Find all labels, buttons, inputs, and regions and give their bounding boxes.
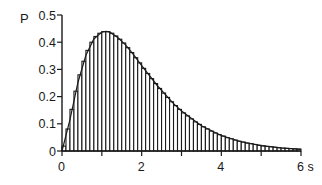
histogram-bar (245, 143, 249, 151)
histogram-bar (94, 36, 98, 151)
histogram-bar (170, 102, 174, 151)
histogram-bar (78, 75, 82, 151)
histogram-bar (122, 43, 126, 151)
histogram-bar (237, 141, 241, 151)
histogram-bar (209, 131, 213, 151)
x-tick-label: 6 s (297, 160, 314, 174)
histogram-bar (154, 84, 158, 151)
histogram-bar (110, 33, 114, 151)
histogram-bar (158, 88, 162, 151)
histogram-bar (138, 63, 142, 151)
histogram-bar (178, 109, 182, 151)
histogram-bar (193, 122, 197, 151)
histogram-bar (221, 136, 225, 151)
histogram-bar (189, 119, 193, 151)
histogram-bar (197, 124, 201, 151)
histogram-bar (114, 36, 118, 151)
y-tick-label: 0.2 (39, 90, 56, 104)
y-tick-label: 0.5 (39, 9, 56, 23)
histogram-bar (217, 135, 221, 151)
histogram-bar (253, 144, 257, 151)
histogram-bar (233, 140, 237, 151)
y-tick-label: 0 (49, 145, 56, 159)
y-tick-label: 0.3 (39, 63, 56, 77)
histogram-bar (185, 116, 189, 151)
y-axis-ticks: 00.10.20.30.40.5 (39, 9, 62, 159)
histogram-bar (174, 106, 178, 151)
histogram-bar (134, 58, 138, 151)
histogram-bar (106, 32, 110, 151)
histogram-bar (201, 127, 205, 151)
histogram-bar (205, 129, 209, 151)
histogram-bar (98, 33, 102, 151)
histogram-chart: 00.10.20.30.40.5 0246 s P (0, 0, 322, 185)
histogram-bar (142, 68, 146, 151)
histogram-bar (261, 146, 265, 151)
x-tick-label: 2 (138, 160, 145, 174)
histogram-bar (82, 61, 86, 151)
histogram-bar (249, 144, 253, 151)
histogram-bar (118, 39, 122, 151)
histogram-bar (162, 93, 166, 151)
histogram-bar (241, 142, 245, 151)
histogram-bar (130, 53, 134, 151)
y-axis-label: P (20, 11, 29, 26)
histogram-bar (150, 79, 154, 151)
histogram-bar (225, 138, 229, 151)
histogram-bar (146, 73, 150, 151)
histogram-bar (166, 97, 170, 151)
y-tick-label: 0.1 (39, 117, 56, 131)
histogram-bar (182, 113, 186, 151)
histogram-bars (62, 32, 301, 151)
x-tick-label: 4 (217, 160, 224, 174)
histogram-bar (257, 145, 261, 151)
histogram-bar (229, 139, 233, 151)
x-axis-ticks: 0246 s (58, 151, 314, 174)
histogram-bar (102, 32, 106, 151)
x-tick-label: 0 (58, 160, 65, 174)
histogram-bar (126, 48, 130, 151)
histogram-bar (213, 133, 217, 151)
histogram-bar (86, 50, 90, 151)
y-tick-label: 0.4 (39, 36, 56, 50)
histogram-bar (90, 42, 94, 151)
